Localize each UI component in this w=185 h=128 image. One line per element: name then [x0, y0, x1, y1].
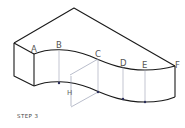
label-a: A — [31, 44, 37, 54]
label-e: E — [142, 60, 147, 70]
point-d-bottom — [122, 98, 124, 100]
bottom-curve — [34, 82, 175, 102]
isometric-drawing: A B C D E F H — [0, 0, 185, 128]
point-b-bottom — [58, 82, 60, 84]
step-caption: STEP 3 — [17, 113, 38, 119]
extension-line-top — [70, 59, 98, 75]
label-c: C — [95, 49, 101, 59]
top-curve — [34, 50, 175, 70]
label-h: H — [67, 89, 72, 97]
extension-line-bottom — [71, 92, 98, 107]
point-c-bottom — [97, 91, 99, 93]
point-e-bottom — [144, 101, 146, 103]
label-b: B — [56, 40, 62, 50]
label-f: F — [175, 60, 180, 70]
label-d: D — [120, 58, 127, 68]
